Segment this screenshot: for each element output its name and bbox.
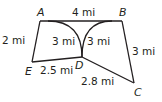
edge-ea: [32, 21, 40, 62]
vertex-label-a: A: [36, 6, 45, 19]
length-label-ed: 2.5 mi: [40, 64, 73, 76]
length-label-ad-arc: 3 mi: [52, 35, 75, 47]
vertex-label-b: B: [119, 6, 127, 19]
length-label-bd-arc: 3 mi: [87, 35, 110, 47]
length-label-ea: 2 mi: [2, 34, 25, 46]
vertex-label-d: D: [75, 59, 83, 72]
vertex-label-e: E: [25, 65, 32, 78]
length-label-dc: 2.8 mi: [81, 75, 114, 87]
route-diagram: A B C D E 4 mi 2 mi 3 mi 3 mi 3 mi 2.5 m…: [0, 0, 162, 102]
vertex-label-c: C: [134, 86, 142, 99]
length-label-ab: 4 mi: [72, 6, 95, 18]
length-label-bc: 3 mi: [132, 45, 155, 57]
